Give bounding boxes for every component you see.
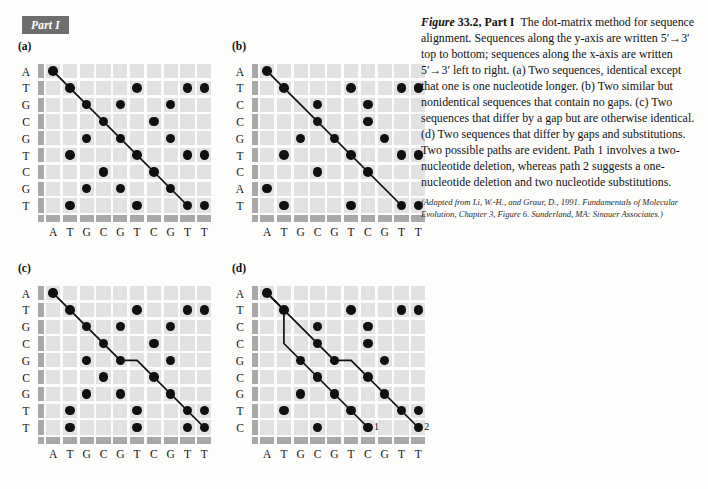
match-dot: [132, 83, 142, 93]
match-dot: [65, 305, 75, 315]
match-dot: [116, 389, 126, 399]
match-dot: [65, 150, 75, 160]
match-dot: [149, 167, 159, 177]
alignment-path-2: [267, 293, 418, 427]
match-dot: [65, 423, 75, 433]
match-dot: [116, 134, 126, 144]
panel-b: (b)ATCCGTCATATGCGTCGTT: [232, 40, 442, 245]
match-dot: [48, 66, 58, 76]
match-dot: [132, 150, 142, 160]
match-dot: [330, 134, 340, 144]
panel-a: (a)ATGCGTCGTATGCGTCGTT: [18, 40, 228, 245]
match-dot: [65, 201, 75, 211]
match-dot: [363, 100, 373, 110]
match-dot: [149, 117, 159, 127]
match-dot: [363, 117, 373, 127]
match-dot: [149, 339, 159, 349]
match-dot: [313, 167, 323, 177]
match-dot: [397, 83, 407, 93]
match-dot: [363, 167, 373, 177]
match-dot: [82, 389, 92, 399]
match-dot: [397, 305, 407, 315]
match-dot: [346, 83, 356, 93]
match-dot: [65, 406, 75, 416]
match-dot: [262, 288, 272, 298]
match-dot: [183, 150, 193, 160]
caption-body: The dot-matrix method for sequence align…: [421, 15, 694, 189]
match-dot: [116, 356, 126, 366]
match-dot: [132, 423, 142, 433]
match-dot: [380, 389, 390, 399]
match-dot: [363, 339, 373, 349]
match-dot: [200, 83, 210, 93]
match-dot: [200, 150, 210, 160]
path-number-1: 1: [374, 421, 379, 432]
match-dot: [346, 150, 356, 160]
match-dot: [99, 372, 109, 382]
match-dot: [279, 150, 289, 160]
match-dot: [313, 372, 323, 382]
match-dot: [279, 83, 289, 93]
match-dot: [279, 305, 289, 315]
match-dot: [397, 150, 407, 160]
match-dot: [363, 322, 373, 332]
match-dot: [363, 423, 373, 433]
match-dot: [200, 305, 210, 315]
match-dot: [48, 288, 58, 298]
caption-figure-number: 33.2, Part I: [458, 15, 515, 29]
caption-figure-label: Figure: [421, 15, 455, 29]
match-dot: [99, 167, 109, 177]
match-dot: [414, 305, 424, 315]
match-dot: [183, 305, 193, 315]
match-dot: [296, 389, 306, 399]
match-dot: [363, 372, 373, 382]
match-dot: [166, 389, 176, 399]
alignment-path-main: [53, 293, 204, 427]
figure-page: Part I (a)ATGCGTCGTATGCGTCGTT(b)ATCCGTCA…: [0, 0, 708, 489]
path-number-2: 2: [424, 421, 429, 432]
match-dot: [183, 83, 193, 93]
figure-caption: Figure 33.2, Part I The dot-matrix metho…: [421, 14, 699, 190]
match-dot: [330, 389, 340, 399]
match-dot: [262, 66, 272, 76]
figure-source: (Adapted from Li, W.-H., and Graur, D., …: [421, 196, 699, 220]
match-dot: [132, 201, 142, 211]
match-dot: [279, 201, 289, 211]
part-tab: Part I: [22, 16, 69, 34]
panel-d: (d)ATCCGCGTCATGCGTCGTT12: [232, 262, 442, 467]
match-dot: [132, 305, 142, 315]
match-dot: [65, 83, 75, 93]
match-dot: [149, 372, 159, 382]
panel-c: (c)ATGCGCGTTATGCGTCGTT: [18, 262, 228, 467]
match-dot: [330, 356, 340, 366]
match-dot: [346, 305, 356, 315]
match-dot: [346, 201, 356, 211]
match-dot: [279, 406, 289, 416]
